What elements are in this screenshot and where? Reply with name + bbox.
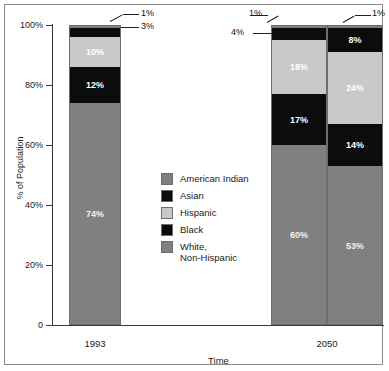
y-axis-title: % of Population (13, 100, 27, 240)
callout-2050a-american-indian: 1% (249, 8, 262, 18)
x-axis-line (52, 325, 384, 326)
legend-item-white-non-hispanic[interactable]: White, Non-Hispanic (161, 241, 273, 263)
legend-item-hispanic[interactable]: Hispanic (161, 207, 273, 219)
y-tick-80 (46, 85, 53, 86)
segment-2050b-black[interactable]: 14% (327, 124, 383, 166)
bar-2050-b[interactable]: 8% 24% 14% 53% (327, 25, 383, 325)
legend-label-hispanic: Hispanic (180, 207, 216, 218)
segment-label-1993-hispanic: 10% (86, 47, 104, 57)
y-tick-60 (46, 145, 53, 146)
segment-2050a-white-non-hispanic[interactable]: 60% (271, 145, 327, 325)
leader-line-2050b-amind-diag (343, 16, 355, 23)
segment-2050a-black[interactable]: 17% (271, 94, 327, 145)
legend-swatch-asian (161, 190, 173, 202)
segment-2050b-hispanic[interactable]: 24% (327, 52, 383, 124)
segment-1993-hispanic[interactable]: 10% (69, 37, 121, 67)
y-tick-20 (46, 265, 53, 266)
segment-2050b-white-non-hispanic[interactable]: 53% (327, 166, 383, 325)
leader-line-2050a-amind-diag (267, 16, 279, 23)
y-tick-label-80: 80% (5, 80, 43, 90)
legend-swatch-hispanic (161, 207, 173, 219)
segment-label-2050b-white: 53% (346, 241, 364, 251)
legend-swatch-american-indian (161, 173, 173, 185)
callout-2050b-american-indian: 1% (372, 8, 385, 18)
y-axis-line (52, 24, 53, 326)
y-tick-40 (46, 205, 53, 206)
leader-line-1993-asian (121, 27, 139, 28)
legend-label-white-line1: White, (180, 241, 237, 252)
legend-item-black[interactable]: Black (161, 224, 273, 236)
legend-label-white-line2: Non-Hispanic (180, 252, 237, 263)
x-tick-label-1993: 1993 (65, 338, 125, 349)
leader-line-1993-amind-horiz (123, 14, 139, 15)
legend-item-american-indian[interactable]: American Indian (161, 173, 273, 185)
x-tick-label-2050: 2050 (297, 338, 357, 349)
chart-frame: 100% 80% 60% 40% 20% 0 % of Population 1… (4, 4, 383, 365)
legend-label-asian: Asian (180, 190, 204, 201)
callout-2050a-asian: 4% (231, 27, 244, 37)
segment-1993-black[interactable]: 12% (69, 67, 121, 103)
segment-label-1993-white: 74% (86, 209, 104, 219)
leader-line-2050b-amind-horiz (355, 15, 371, 16)
leader-line-1993-amind-diag (110, 14, 123, 21)
legend-label-black: Black (180, 224, 203, 235)
legend-swatch-black (161, 224, 173, 236)
segment-label-2050a-white: 60% (290, 230, 308, 240)
segment-label-2050b-asian: 8% (348, 35, 361, 45)
bar-1993[interactable]: 10% 12% 74% (69, 25, 121, 325)
segment-1993-white-non-hispanic[interactable]: 74% (69, 103, 121, 325)
legend-item-asian[interactable]: Asian (161, 190, 273, 202)
segment-label-2050b-black: 14% (346, 140, 364, 150)
segment-label-2050b-hispanic: 24% (346, 83, 364, 93)
leader-line-2050a-asian (253, 33, 272, 34)
legend-swatch-white-non-hispanic (161, 241, 173, 253)
bar-2050-a[interactable]: 18% 17% 60% (271, 25, 327, 325)
y-tick-label-100: 100% (5, 20, 43, 30)
y-tick-0 (46, 325, 53, 326)
y-tick-label-0: 0 (5, 320, 43, 330)
segment-label-2050a-hispanic: 18% (290, 62, 308, 72)
segment-label-2050a-black: 17% (290, 115, 308, 125)
x-axis-title: Time (53, 355, 384, 366)
y-axis-title-text: % of Population (15, 98, 25, 238)
segment-1993-asian[interactable] (69, 28, 121, 37)
chart-legend: American Indian Asian Hispanic Black Whi… (161, 173, 273, 268)
segment-2050a-asian[interactable] (271, 28, 327, 40)
y-tick-100 (46, 25, 53, 26)
callout-1993-american-indian: 1% (141, 8, 154, 18)
y-tick-label-20: 20% (5, 260, 43, 270)
segment-2050a-hispanic[interactable]: 18% (271, 40, 327, 94)
segment-2050b-asian[interactable]: 8% (327, 28, 383, 52)
callout-1993-asian: 3% (141, 21, 154, 31)
legend-label-american-indian: American Indian (180, 173, 249, 184)
segment-label-1993-black: 12% (86, 80, 104, 90)
